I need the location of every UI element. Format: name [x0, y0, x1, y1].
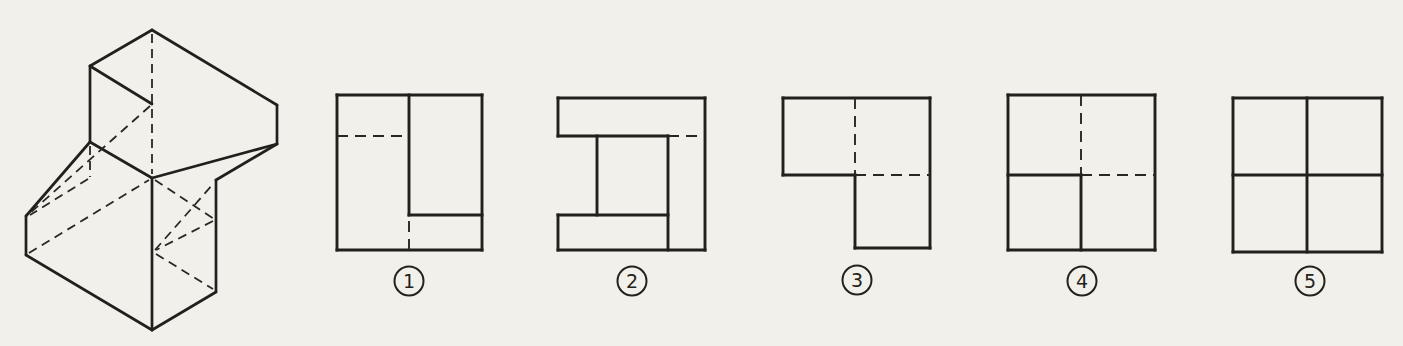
visible-edge-line	[152, 292, 216, 330]
visible-edge-line	[152, 30, 277, 105]
visible-edge-line	[26, 142, 90, 216]
hidden-edge-line	[155, 180, 214, 219]
visible-edge-line	[90, 30, 152, 66]
option-number-label: 1	[403, 270, 415, 292]
visible-edge-line	[90, 142, 152, 178]
visible-edge-line	[90, 66, 152, 104]
option-number-label: 3	[851, 269, 863, 291]
option-number-label: 5	[1304, 270, 1316, 292]
visible-edge-line	[216, 144, 277, 180]
option-figure-3: 3	[783, 98, 930, 295]
hidden-edge-line	[155, 183, 214, 250]
option-figure-2: 2	[558, 98, 705, 296]
option-number-label: 2	[626, 270, 638, 292]
hidden-edge-line	[156, 221, 213, 250]
option-figure-4: 4	[1008, 95, 1155, 296]
projection-question-canvas: 1 2 3 4 5	[0, 0, 1403, 346]
option-figure-5: 5	[1233, 98, 1382, 296]
isometric-object	[26, 30, 277, 330]
visible-edge-line	[26, 255, 152, 330]
hidden-edge-line	[156, 254, 213, 289]
hidden-edge-line	[30, 179, 88, 215]
visible-edge-line	[152, 144, 277, 178]
worksheet-page: 1 2 3 4 5	[0, 0, 1403, 346]
option-number-label: 4	[1076, 270, 1088, 292]
option-figure-1: 1	[337, 95, 482, 296]
